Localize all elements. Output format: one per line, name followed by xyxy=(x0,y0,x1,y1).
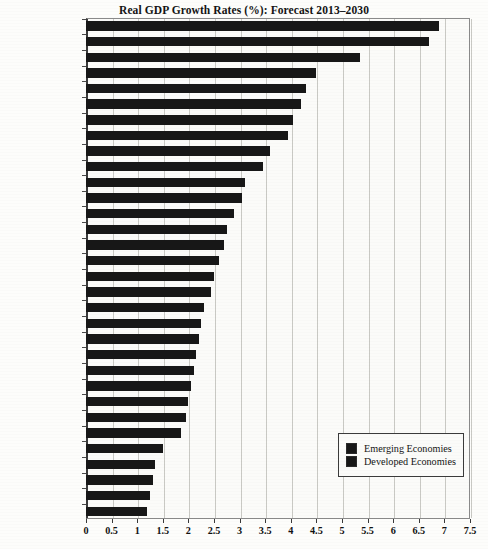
bar xyxy=(86,131,288,140)
bar xyxy=(86,162,263,171)
y-axis-tick xyxy=(82,410,86,411)
x-axis-label: 5.5 xyxy=(361,525,374,536)
legend-swatch-emerging-icon xyxy=(346,443,357,454)
bar-row: India xyxy=(86,19,470,34)
bar-row: France xyxy=(86,379,470,394)
bar xyxy=(86,146,270,155)
x-axis-tick xyxy=(419,519,420,523)
x-axis-tick xyxy=(316,519,317,523)
x-axis-tick xyxy=(470,519,471,523)
y-axis-tick xyxy=(82,34,86,35)
bar-row: Australia xyxy=(86,175,470,190)
bar-row: China xyxy=(86,34,470,49)
bar-row: Israel xyxy=(86,238,470,253)
y-axis-tick xyxy=(82,175,86,176)
bar-row: Mexico xyxy=(86,160,470,175)
bar xyxy=(86,115,293,124)
bar xyxy=(86,334,199,343)
bar xyxy=(86,319,201,328)
x-axis-label: 6.5 xyxy=(412,525,425,536)
x-axis-label: 1 xyxy=(135,525,140,536)
x-axis-tick xyxy=(137,519,138,523)
y-axis-tick xyxy=(82,473,86,474)
x-axis-label: 4.5 xyxy=(310,525,323,536)
bar xyxy=(86,272,214,281)
y-axis-tick xyxy=(82,332,86,333)
bar-row: Finland xyxy=(86,347,470,362)
bar-row: Japan xyxy=(86,504,470,519)
x-axis-label: 0 xyxy=(83,525,88,536)
bar-row: World xyxy=(86,332,470,347)
bar-row: Hungary xyxy=(86,269,470,284)
bar-row: United Kingdom xyxy=(86,410,470,425)
legend-item-developed: Developed Economies xyxy=(346,456,456,467)
legend-label-emerging: Emerging Economies xyxy=(364,443,452,454)
bar xyxy=(86,491,150,500)
bar-row: Chile xyxy=(86,113,470,128)
bar xyxy=(86,84,306,93)
bar xyxy=(86,256,219,265)
x-axis-tick xyxy=(214,519,215,523)
x-axis-label: 2.5 xyxy=(208,525,221,536)
x-axis-label: 7 xyxy=(442,525,447,536)
bar-row: Brazil xyxy=(86,97,470,112)
y-axis-tick xyxy=(82,426,86,427)
x-axis-tick xyxy=(444,519,445,523)
x-axis-tick xyxy=(368,519,369,523)
bar-row: Norway xyxy=(86,206,470,221)
x-axis-label: 3 xyxy=(237,525,242,536)
x-axis-label: 5 xyxy=(339,525,344,536)
y-axis-tick xyxy=(82,457,86,458)
y-axis-tick xyxy=(82,81,86,82)
bar-row: Russia xyxy=(86,191,470,206)
bar xyxy=(86,413,186,422)
y-axis-tick xyxy=(82,19,86,20)
y-axis-tick xyxy=(82,285,86,286)
y-axis-tick xyxy=(82,206,86,207)
bar xyxy=(86,99,301,108)
bar xyxy=(86,193,242,202)
y-axis-tick xyxy=(82,488,86,489)
y-axis-tick xyxy=(82,144,86,145)
legend-label-developed: Developed Economies xyxy=(364,456,456,467)
bar xyxy=(86,225,227,234)
x-axis-tick xyxy=(163,519,164,523)
x-axis-label: 6 xyxy=(391,525,396,536)
x-axis-tick xyxy=(393,519,394,523)
bar-row: South Africa xyxy=(86,128,470,143)
x-axis-tick xyxy=(188,519,189,523)
y-axis-tick xyxy=(82,222,86,223)
bar xyxy=(86,350,196,359)
legend-swatch-developed-icon xyxy=(346,456,357,467)
y-axis-tick xyxy=(82,394,86,395)
x-axis-tick xyxy=(342,519,343,523)
gridline-7.5 xyxy=(471,19,472,518)
x-axis: 00.511.522.533.544.555.566.577.5 xyxy=(86,519,470,549)
x-axis-label: 7.5 xyxy=(464,525,477,536)
bar-row: Saudi Arabia xyxy=(86,81,470,96)
bar xyxy=(86,475,153,484)
bar-row: Korea xyxy=(86,222,470,237)
y-axis-tick xyxy=(82,441,86,442)
y-axis-tick xyxy=(82,113,86,114)
y-axis-tick xyxy=(82,66,86,67)
bar xyxy=(86,21,439,30)
bar xyxy=(86,381,191,390)
bar xyxy=(86,37,429,46)
y-axis-tick xyxy=(82,347,86,348)
y-axis-tick xyxy=(82,191,86,192)
bar-row: Switzerland xyxy=(86,316,470,331)
bar xyxy=(86,178,245,187)
x-axis-label: 0.5 xyxy=(105,525,118,536)
bar xyxy=(86,460,155,469)
y-axis-tick xyxy=(82,379,86,380)
y-axis-tick xyxy=(82,269,86,270)
x-axis-tick xyxy=(291,519,292,523)
y-axis-tick xyxy=(82,50,86,51)
gdp-growth-bar-chart: Real GDP Growth Rates (%): Forecast 2013… xyxy=(0,0,488,549)
bar xyxy=(86,428,181,437)
bar-row: Sweden xyxy=(86,285,470,300)
bar-row: Poland xyxy=(86,253,470,268)
bar xyxy=(86,287,211,296)
x-axis-tick xyxy=(265,519,266,523)
